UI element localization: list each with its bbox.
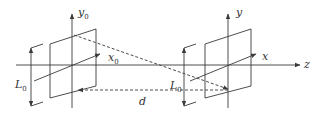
label-L0-left: L0 xyxy=(15,79,27,93)
label-z: z xyxy=(304,59,310,70)
left-front-top xyxy=(31,44,43,48)
diagram-canvas: y0 x0 L0 y x z d L0 xyxy=(0,0,312,122)
label-d: d xyxy=(139,96,146,107)
left-back-plane xyxy=(50,29,96,98)
left-front-bottom xyxy=(31,102,43,106)
label-y: y xyxy=(236,7,242,18)
label-x0: x0 xyxy=(108,52,119,66)
label-L0-right: L0 xyxy=(170,80,182,94)
right-front-top xyxy=(184,44,196,48)
right-front-bottom xyxy=(184,102,196,106)
x0-axis xyxy=(34,54,100,81)
label-y0: y0 xyxy=(78,7,89,21)
x-axis xyxy=(190,54,256,81)
label-x: x xyxy=(262,51,268,62)
